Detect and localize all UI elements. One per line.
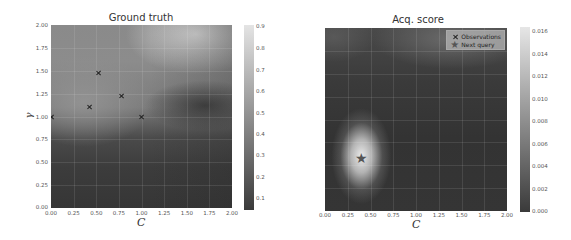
x-axis-label-right: C — [412, 218, 420, 231]
legend-item-next-query: ★ Next query — [450, 40, 501, 48]
acq-score-heatmap: ★ Observations ★ Next query — [325, 28, 507, 211]
next-query-star-icon: ★ — [355, 151, 368, 165]
acq-score-title: Acq. score — [392, 14, 444, 25]
acq-score-colorbar — [520, 27, 530, 212]
acq-score-panel: Acq. score ★ Observations ★ Next query 0… — [0, 0, 571, 240]
x-marker-icon — [450, 34, 459, 39]
legend-item-observations: Observations — [450, 32, 501, 40]
star-icon: ★ — [450, 39, 459, 50]
legend: Observations ★ Next query — [446, 30, 505, 50]
